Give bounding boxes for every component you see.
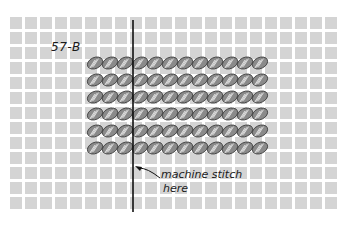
figure-label: 57-B xyxy=(51,40,81,54)
diagram-canvas xyxy=(0,0,364,231)
annotation-text: machine stitch xyxy=(161,168,242,181)
annotation-text-2: here xyxy=(163,182,188,195)
